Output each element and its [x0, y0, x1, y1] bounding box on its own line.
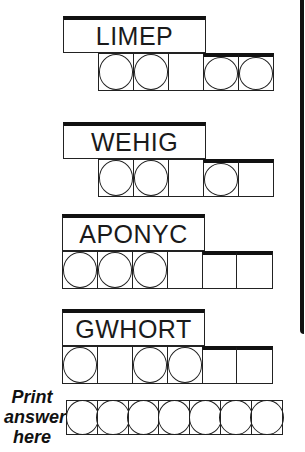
letter-cell[interactable] [202, 251, 238, 289]
circle-marker-icon [133, 252, 167, 288]
answer-letter-cell[interactable] [220, 400, 252, 435]
circle-marker-icon [158, 400, 191, 435]
letter-cell[interactable] [168, 53, 204, 91]
letter-cell[interactable] [98, 159, 134, 197]
right-panel-border [300, 0, 304, 334]
answer-cells-4 [62, 346, 273, 384]
answer-letter-cell[interactable] [97, 400, 129, 435]
letter-cell[interactable] [168, 159, 204, 197]
letter-cell[interactable] [238, 53, 274, 91]
circle-marker-icon [133, 347, 167, 383]
scrambled-word-4: GWHORT [62, 309, 205, 346]
scrambled-word-3: APONYC [62, 214, 205, 251]
letter-cell[interactable] [98, 53, 134, 91]
answer-letter-cell[interactable] [251, 400, 283, 435]
answer-letter-cell[interactable] [66, 400, 98, 435]
answer-cells-3 [62, 251, 273, 289]
letter-cell[interactable] [202, 346, 238, 384]
circle-marker-icon [127, 400, 160, 435]
scrambled-word-2: WEHIG [63, 122, 206, 159]
circle-marker-icon [219, 400, 252, 435]
letter-cell[interactable] [133, 53, 169, 91]
letter-cell[interactable] [203, 159, 239, 197]
answer-cells-2 [98, 159, 274, 197]
letter-cell[interactable] [97, 251, 133, 289]
scrambled-word-1: LIMEP [63, 16, 206, 53]
circle-marker-icon [204, 163, 238, 196]
circle-marker-icon [99, 160, 133, 196]
letter-cell[interactable] [132, 251, 168, 289]
letter-cell[interactable] [236, 251, 272, 289]
answer-letter-cell[interactable] [128, 400, 160, 435]
circle-marker-icon [168, 347, 202, 383]
letter-cell[interactable] [62, 251, 98, 289]
label-line: answer [4, 407, 60, 427]
letter-cell[interactable] [167, 346, 203, 384]
letter-cell[interactable] [238, 159, 274, 197]
letter-cell[interactable] [133, 159, 169, 197]
circle-marker-icon [204, 57, 238, 90]
circle-marker-icon [189, 400, 222, 435]
answer-letter-cell[interactable] [158, 400, 190, 435]
circle-marker-icon [134, 54, 168, 90]
circle-marker-icon [63, 252, 97, 288]
letter-cell[interactable] [203, 53, 239, 91]
letter-cell[interactable] [97, 346, 133, 384]
final-answer-cells [66, 400, 283, 435]
circle-marker-icon [99, 54, 133, 90]
circle-marker-icon [250, 400, 283, 435]
letter-cell[interactable] [236, 346, 272, 384]
letter-cell[interactable] [167, 251, 203, 289]
circle-marker-icon [98, 252, 132, 288]
label-line: Print [4, 387, 60, 407]
circle-marker-icon [96, 400, 129, 435]
letter-cell[interactable] [62, 346, 98, 384]
circle-marker-icon [63, 347, 97, 383]
answer-letter-cell[interactable] [189, 400, 221, 435]
print-answer-label: Print answer here [4, 387, 60, 447]
letter-cell[interactable] [132, 346, 168, 384]
circle-marker-icon [134, 160, 168, 196]
circle-marker-icon [239, 57, 273, 90]
label-line: here [4, 427, 60, 447]
answer-cells-1 [98, 53, 274, 91]
circle-marker-icon [66, 400, 99, 435]
